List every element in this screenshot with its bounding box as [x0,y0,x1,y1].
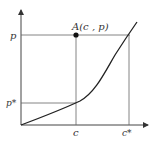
x-label-cstar: c* [122,128,132,138]
point-a [73,32,78,37]
x-label-c: c [73,127,79,138]
y-label-pstar: p* [6,98,17,108]
y-label-p: p [10,30,17,41]
diagram-canvas: A(c , p) p p* c c* [0,0,153,141]
function-curve [21,22,137,125]
point-a-label: A(c , p) [71,21,109,32]
